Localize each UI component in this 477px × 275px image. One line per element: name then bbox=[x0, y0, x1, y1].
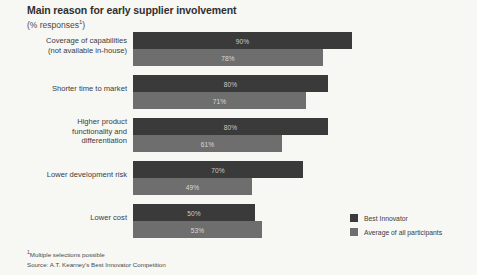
bar-best-innovator[interactable]: 90% bbox=[133, 32, 352, 49]
category-label-line: Shorter time to market bbox=[7, 84, 127, 94]
bar-value-label: 80% bbox=[219, 123, 243, 130]
bar-pair: 90% 78% bbox=[133, 32, 352, 66]
bar-pair: 80% 61% bbox=[133, 118, 328, 152]
footnote-text: Multiple selections possible bbox=[30, 251, 105, 258]
chart-legend: Best Innovator Average of all participan… bbox=[350, 211, 442, 239]
legend-item-best-innovator[interactable]: Best Innovator bbox=[350, 211, 442, 225]
bar-value-label: 70% bbox=[206, 166, 230, 173]
footnote-text: Source: A.T. Kearney's Best Innovator Co… bbox=[27, 261, 166, 268]
category-label-line: Coverage of capabilities bbox=[7, 36, 127, 46]
bar-value-label: 71% bbox=[208, 97, 232, 104]
category-label-line: differentiation bbox=[7, 136, 127, 146]
bar-value-label: 50% bbox=[182, 209, 206, 216]
legend-item-label: Best Innovator bbox=[364, 215, 408, 222]
chart-subtitle: (% responses1) bbox=[27, 19, 236, 31]
bar-pair: 70% 49% bbox=[133, 161, 303, 195]
bar-average-participants[interactable]: 49% bbox=[133, 178, 252, 195]
bar-pair: 80% 71% bbox=[133, 75, 328, 109]
bar-value-label: 90% bbox=[231, 37, 255, 44]
bar-average-participants[interactable]: 71% bbox=[133, 92, 306, 109]
bar-value-label: 78% bbox=[216, 54, 240, 61]
page-title: Main reason for early supplier involveme… bbox=[27, 4, 236, 17]
bar-best-innovator[interactable]: 80% bbox=[133, 75, 328, 92]
category-label-line: (not available in-house) bbox=[7, 46, 127, 56]
bar-value-label: 80% bbox=[219, 80, 243, 87]
bar-pair: 50% 53% bbox=[133, 204, 262, 238]
chart-subtitle-close: ) bbox=[82, 20, 85, 30]
legend-item-average-participants[interactable]: Average of all participants bbox=[350, 225, 442, 239]
footnote-multiple-selections: 1Multiple selections possible bbox=[27, 250, 166, 260]
footnote-source: Source: A.T. Kearney's Best Innovator Co… bbox=[27, 260, 166, 270]
legend-item-label: Average of all participants bbox=[364, 229, 442, 236]
bar-value-label: 61% bbox=[196, 140, 220, 147]
legend-swatch-icon bbox=[350, 228, 358, 236]
bar-best-innovator[interactable]: 70% bbox=[133, 161, 303, 178]
category-label-line: Lower cost bbox=[7, 213, 127, 223]
legend-swatch-icon bbox=[350, 214, 358, 222]
chart-subtitle-text: (% responses bbox=[27, 20, 79, 30]
category-label-lower-cost: Lower cost bbox=[7, 213, 127, 223]
category-label-line: Lower development risk bbox=[7, 170, 127, 180]
chart-header: Main reason for early supplier involveme… bbox=[27, 4, 236, 31]
category-label-shorter-time-to-market: Shorter time to market bbox=[7, 84, 127, 94]
category-label-line: functionality and bbox=[7, 127, 127, 137]
category-label-coverage-of-capabilities: Coverage of capabilities (not available … bbox=[7, 36, 127, 55]
category-label-higher-product-functionality: Higher product functionality and differe… bbox=[7, 117, 127, 146]
bar-best-innovator[interactable]: 80% bbox=[133, 118, 328, 135]
category-label-lower-development-risk: Lower development risk bbox=[7, 170, 127, 180]
chart-footnotes: 1Multiple selections possible Source: A.… bbox=[27, 250, 166, 270]
bar-average-participants[interactable]: 78% bbox=[133, 49, 323, 66]
bar-value-label: 49% bbox=[181, 183, 205, 190]
bar-average-participants[interactable]: 53% bbox=[133, 221, 262, 238]
bar-average-participants[interactable]: 61% bbox=[133, 135, 282, 152]
category-label-line: Higher product bbox=[7, 117, 127, 127]
bar-value-label: 53% bbox=[186, 226, 210, 233]
bar-best-innovator[interactable]: 50% bbox=[133, 204, 255, 221]
